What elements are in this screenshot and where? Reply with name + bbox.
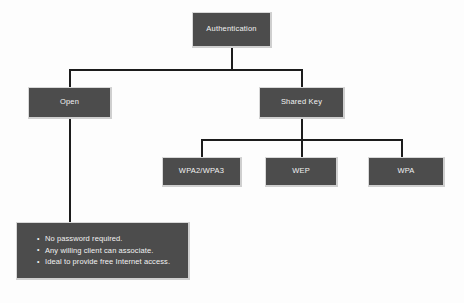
list-item: Any willing client can associate. <box>45 245 170 257</box>
authentication-tree-diagram: Authentication Open Shared Key WPA2/WPA3… <box>0 0 464 303</box>
connector-root-bus <box>69 69 303 71</box>
connector-shared-key-stem <box>301 118 303 140</box>
node-authentication[interactable]: Authentication <box>192 12 272 48</box>
open-auth-details-box[interactable]: No password required. Any willing client… <box>16 222 190 280</box>
node-wpa2-wpa3-label: WPA2/WPA3 <box>179 167 224 175</box>
connector-open-to-info <box>69 118 71 223</box>
node-open-label: Open <box>60 98 79 106</box>
node-wpa-label: WPA <box>397 167 414 175</box>
node-shared-key[interactable]: Shared Key <box>259 87 345 119</box>
node-open[interactable]: Open <box>28 87 112 119</box>
list-item: No password required. <box>45 233 170 245</box>
list-item: Ideal to provide free Internet access. <box>45 256 170 268</box>
connector-root-stem <box>231 48 233 70</box>
connector-to-wpa <box>401 139 403 158</box>
connector-to-shared-key <box>301 69 303 88</box>
node-wep-label: WEP <box>292 167 310 175</box>
node-shared-key-label: Shared Key <box>281 98 322 106</box>
node-wpa[interactable]: WPA <box>368 157 445 187</box>
connector-to-open <box>69 69 71 88</box>
connector-to-wep <box>301 139 303 158</box>
node-wep[interactable]: WEP <box>265 157 338 187</box>
connector-to-wpa2-wpa3 <box>201 139 203 158</box>
node-wpa2-wpa3[interactable]: WPA2/WPA3 <box>162 157 242 187</box>
open-auth-bullet-list: No password required. Any willing client… <box>17 233 170 268</box>
node-authentication-label: Authentication <box>206 25 256 33</box>
